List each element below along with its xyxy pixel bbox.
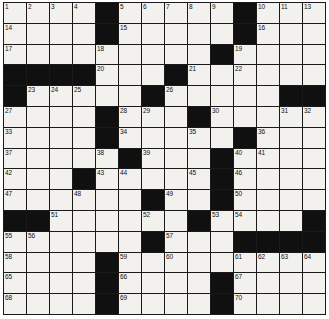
crossword-open-cell[interactable]	[165, 211, 188, 232]
crossword-open-cell[interactable]	[257, 190, 280, 211]
crossword-open-cell[interactable]: 53	[211, 211, 234, 232]
crossword-open-cell[interactable]	[280, 169, 303, 190]
crossword-open-cell[interactable]: 15	[119, 24, 142, 45]
crossword-open-cell[interactable]: 54	[234, 211, 257, 232]
crossword-open-cell[interactable]	[142, 169, 165, 190]
crossword-open-cell[interactable]: 41	[257, 149, 280, 170]
crossword-open-cell[interactable]: 32	[303, 107, 326, 128]
crossword-open-cell[interactable]: 40	[234, 149, 257, 170]
crossword-open-cell[interactable]	[27, 45, 50, 66]
crossword-grid[interactable]: 1234567891011131415161718192021222324252…	[3, 2, 326, 315]
crossword-open-cell[interactable]	[188, 273, 211, 294]
crossword-open-cell[interactable]: 6	[142, 3, 165, 24]
crossword-open-cell[interactable]: 25	[73, 86, 96, 107]
crossword-open-cell[interactable]: 58	[4, 253, 27, 274]
crossword-open-cell[interactable]: 65	[4, 273, 27, 294]
crossword-open-cell[interactable]: 29	[142, 107, 165, 128]
crossword-open-cell[interactable]: 44	[119, 169, 142, 190]
crossword-open-cell[interactable]: 62	[257, 253, 280, 274]
crossword-open-cell[interactable]	[257, 211, 280, 232]
crossword-open-cell[interactable]	[303, 169, 326, 190]
crossword-open-cell[interactable]	[96, 190, 119, 211]
crossword-open-cell[interactable]	[73, 232, 96, 253]
crossword-open-cell[interactable]	[50, 190, 73, 211]
crossword-open-cell[interactable]: 24	[50, 86, 73, 107]
crossword-open-cell[interactable]	[119, 65, 142, 86]
crossword-open-cell[interactable]	[257, 273, 280, 294]
crossword-open-cell[interactable]	[303, 128, 326, 149]
crossword-open-cell[interactable]: 37	[4, 149, 27, 170]
crossword-open-cell[interactable]: 26	[165, 86, 188, 107]
crossword-open-cell[interactable]	[142, 253, 165, 274]
crossword-open-cell[interactable]	[73, 253, 96, 274]
crossword-open-cell[interactable]: 27	[4, 107, 27, 128]
crossword-open-cell[interactable]: 38	[96, 149, 119, 170]
crossword-open-cell[interactable]	[96, 86, 119, 107]
crossword-open-cell[interactable]	[303, 294, 326, 315]
crossword-open-cell[interactable]	[165, 149, 188, 170]
crossword-open-cell[interactable]	[303, 24, 326, 45]
crossword-open-cell[interactable]	[142, 24, 165, 45]
crossword-open-cell[interactable]: 34	[119, 128, 142, 149]
crossword-open-cell[interactable]	[142, 45, 165, 66]
crossword-open-cell[interactable]: 42	[4, 169, 27, 190]
crossword-open-cell[interactable]	[188, 190, 211, 211]
crossword-open-cell[interactable]: 1	[4, 3, 27, 24]
crossword-open-cell[interactable]: 10	[257, 3, 280, 24]
crossword-open-cell[interactable]	[27, 169, 50, 190]
crossword-open-cell[interactable]	[303, 149, 326, 170]
crossword-open-cell[interactable]: 20	[96, 65, 119, 86]
crossword-open-cell[interactable]: 30	[211, 107, 234, 128]
crossword-open-cell[interactable]: 35	[188, 128, 211, 149]
crossword-open-cell[interactable]: 16	[257, 24, 280, 45]
crossword-open-cell[interactable]	[119, 86, 142, 107]
crossword-open-cell[interactable]	[211, 65, 234, 86]
crossword-open-cell[interactable]: 31	[280, 107, 303, 128]
crossword-open-cell[interactable]	[280, 273, 303, 294]
crossword-open-cell[interactable]	[96, 232, 119, 253]
crossword-open-cell[interactable]	[50, 128, 73, 149]
crossword-open-cell[interactable]	[188, 149, 211, 170]
crossword-open-cell[interactable]	[280, 45, 303, 66]
crossword-open-cell[interactable]: 36	[257, 128, 280, 149]
crossword-open-cell[interactable]	[211, 232, 234, 253]
crossword-open-cell[interactable]	[119, 45, 142, 66]
crossword-open-cell[interactable]	[50, 107, 73, 128]
crossword-open-cell[interactable]	[280, 190, 303, 211]
crossword-open-cell[interactable]	[257, 65, 280, 86]
crossword-open-cell[interactable]: 47	[4, 190, 27, 211]
crossword-open-cell[interactable]	[257, 294, 280, 315]
crossword-open-cell[interactable]: 23	[27, 86, 50, 107]
crossword-open-cell[interactable]	[188, 24, 211, 45]
crossword-open-cell[interactable]	[73, 211, 96, 232]
crossword-open-cell[interactable]	[73, 45, 96, 66]
crossword-open-cell[interactable]	[119, 232, 142, 253]
crossword-open-cell[interactable]: 60	[165, 253, 188, 274]
crossword-open-cell[interactable]	[188, 294, 211, 315]
crossword-open-cell[interactable]	[27, 128, 50, 149]
crossword-open-cell[interactable]: 50	[234, 190, 257, 211]
crossword-open-cell[interactable]	[27, 294, 50, 315]
crossword-open-cell[interactable]	[165, 128, 188, 149]
crossword-open-cell[interactable]	[165, 169, 188, 190]
crossword-open-cell[interactable]	[280, 211, 303, 232]
crossword-open-cell[interactable]	[73, 294, 96, 315]
crossword-open-cell[interactable]	[303, 45, 326, 66]
crossword-open-cell[interactable]: 14	[4, 24, 27, 45]
crossword-open-cell[interactable]	[211, 253, 234, 274]
crossword-open-cell[interactable]: 49	[165, 190, 188, 211]
crossword-open-cell[interactable]: 21	[188, 65, 211, 86]
crossword-open-cell[interactable]: 45	[188, 169, 211, 190]
crossword-open-cell[interactable]	[27, 253, 50, 274]
crossword-open-cell[interactable]: 11	[280, 3, 303, 24]
crossword-open-cell[interactable]	[50, 273, 73, 294]
crossword-open-cell[interactable]: 9	[211, 3, 234, 24]
crossword-open-cell[interactable]	[257, 169, 280, 190]
crossword-open-cell[interactable]	[188, 232, 211, 253]
crossword-open-cell[interactable]	[280, 24, 303, 45]
crossword-open-cell[interactable]	[165, 294, 188, 315]
crossword-open-cell[interactable]	[165, 273, 188, 294]
crossword-open-cell[interactable]: 70	[234, 294, 257, 315]
crossword-open-cell[interactable]: 3	[50, 3, 73, 24]
crossword-open-cell[interactable]: 33	[4, 128, 27, 149]
